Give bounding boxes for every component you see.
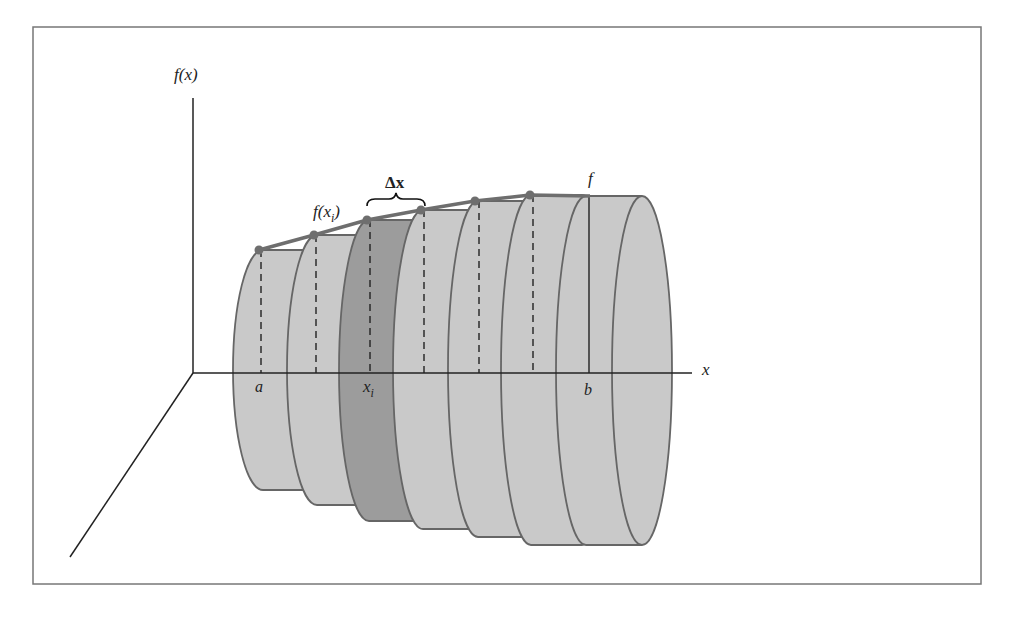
sample-point: [417, 206, 426, 215]
sample-point: [471, 197, 480, 206]
disk-method-diagram: f(x) x a b xi f(xi) Δx f: [0, 0, 1010, 617]
label-delta-x: Δx: [385, 173, 405, 192]
sample-point: [363, 216, 372, 225]
label-f-xi: f(xi): [313, 202, 340, 225]
disk-group: [233, 195, 672, 545]
delta-x-brace: [367, 193, 425, 206]
label-b: b: [584, 381, 592, 398]
y-axis-label: f(x): [174, 65, 198, 84]
sample-point: [255, 246, 264, 255]
disk: [556, 196, 672, 545]
label-f: f: [588, 169, 595, 188]
sample-point: [526, 191, 535, 200]
sample-point: [310, 231, 319, 240]
x-axis-label: x: [701, 360, 710, 379]
label-a: a: [255, 378, 263, 395]
z-axis: [70, 373, 193, 557]
